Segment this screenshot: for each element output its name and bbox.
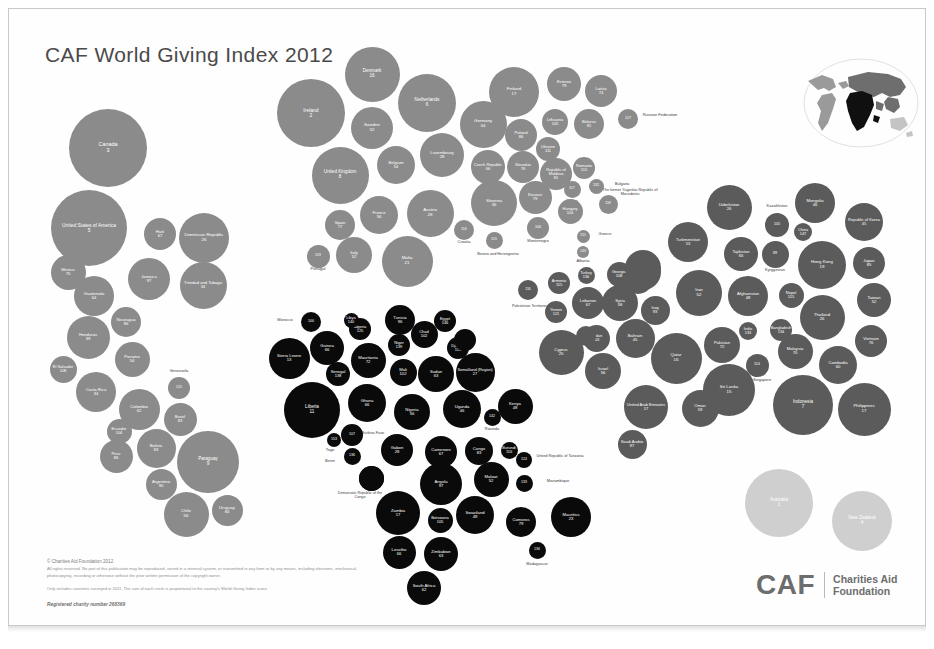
bubble-azerbaijan[interactable] bbox=[625, 250, 661, 286]
bubble-canada[interactable]: Canada3 bbox=[69, 109, 147, 187]
bubble-afghanistan[interactable]: Afghanistan48 bbox=[728, 276, 768, 316]
bubble-venezuela[interactable]: 121 bbox=[168, 377, 190, 399]
bubble-turkmenistan[interactable]: Turkmenistan53 bbox=[668, 222, 708, 262]
bubble-guinea[interactable]: Guinea66 bbox=[310, 331, 344, 365]
bubble-chile[interactable]: Chile56 bbox=[164, 492, 209, 537]
bubble-hong-kong[interactable]: Hong Kong19 bbox=[798, 241, 846, 289]
bubble-bahrain[interactable]: Bahrain45 bbox=[616, 319, 655, 358]
bubble-estonia[interactable]: Estonia79 bbox=[547, 67, 581, 101]
bubble-oman[interactable]: Oman59 bbox=[682, 390, 719, 427]
bubble-mozambique[interactable]: 133 bbox=[516, 475, 533, 492]
bubble-benin[interactable]: 136 bbox=[344, 448, 361, 465]
bubble-serbia[interactable]: 117 bbox=[564, 181, 581, 198]
bubble-mongolia[interactable]: Mongolia46 bbox=[795, 183, 835, 223]
bubble-kyrgyzstan[interactable]: 89 bbox=[762, 241, 789, 268]
bubble-china[interactable]: China147 bbox=[794, 223, 812, 241]
bubble-kuwait[interactable] bbox=[576, 326, 596, 346]
bubble-tajikistan[interactable]: Tajikistan65 bbox=[724, 237, 758, 271]
bubble-rwanda[interactable]: 142 bbox=[484, 409, 501, 426]
bubble-republic-of-korea[interactable]: Republic of Korea45 bbox=[845, 203, 883, 241]
bubble-brazil[interactable]: Brazil83 bbox=[164, 403, 197, 436]
bubble-paraguay[interactable]: Paraguay9 bbox=[177, 431, 239, 493]
bubble-egypt[interactable]: Egypt146 bbox=[434, 310, 456, 332]
bubble-greece[interactable]: 151 bbox=[577, 230, 590, 243]
bubble-nigeria[interactable]: Nigeria56 bbox=[394, 394, 430, 430]
bubble-cambodia[interactable]: Cambodia60 bbox=[819, 346, 857, 384]
bubble-panama[interactable]: Panama54 bbox=[115, 342, 150, 377]
bubble-qatar[interactable]: Qatar16 bbox=[651, 333, 702, 384]
bubble-latvia[interactable]: Latvia74 bbox=[585, 75, 617, 107]
bubble-iran[interactable]: Iran52 bbox=[676, 270, 722, 316]
bubble-sweden[interactable]: Sweden32 bbox=[351, 107, 393, 149]
bubble-israel[interactable]: Israel56 bbox=[585, 353, 621, 389]
bubble-botswana[interactable]: Botswana105 bbox=[428, 508, 453, 533]
bubble-slovenia[interactable]: Slovenia36 bbox=[471, 180, 517, 226]
bubble-russian-federation[interactable]: 127 bbox=[618, 109, 638, 129]
bubble-palestinian-territories[interactable]: 116 bbox=[518, 280, 538, 300]
bubble-indonesia[interactable]: Indonesia7 bbox=[773, 375, 833, 435]
bubble-kenya[interactable]: Kenya48 bbox=[498, 389, 533, 424]
bubble-sudan[interactable]: Sudan63 bbox=[418, 356, 454, 392]
bubble-albania[interactable]: 143 bbox=[577, 246, 589, 258]
bubble-gabon[interactable]: Gabon28 bbox=[381, 434, 413, 466]
bubble-belgium[interactable]: Belgium54 bbox=[377, 146, 415, 184]
bubble-mauritania[interactable]: Mauritania72 bbox=[351, 343, 386, 378]
bubble-armenia[interactable]: Armenia115 bbox=[548, 272, 570, 294]
bubble-turkey[interactable]: Turkey136 bbox=[578, 267, 595, 284]
bubble-ethiopia[interactable] bbox=[454, 329, 476, 351]
bubble-burkina-faso[interactable]: 107 bbox=[341, 424, 363, 446]
bubble-czech-republic[interactable]: Czech Republic66 bbox=[471, 150, 505, 184]
bubble-syria[interactable]: Syria58 bbox=[602, 285, 638, 321]
bubble-argentina[interactable]: Argentina90 bbox=[146, 469, 177, 500]
bubble-ireland[interactable]: Ireland2 bbox=[277, 79, 345, 147]
bubble-south-africa[interactable]: South Africa62 bbox=[407, 571, 441, 605]
bubble-jamaica[interactable]: Jamaica97 bbox=[128, 258, 170, 300]
bubble-croatia[interactable]: 116 bbox=[454, 220, 474, 240]
bubble-guatemala[interactable]: Guatemala64 bbox=[74, 276, 114, 316]
bubble-lithuania[interactable]: Lithuania105 bbox=[542, 109, 568, 135]
bubble-bolivia[interactable]: Bolivia83 bbox=[137, 429, 176, 468]
bubble-portugal[interactable]: 119 bbox=[307, 245, 330, 268]
bubble-denmark[interactable]: Denmark16 bbox=[345, 47, 400, 102]
bubble-austria[interactable]: Austria28 bbox=[407, 190, 454, 237]
bubble-lesotho[interactable]: Lesotho66 bbox=[383, 536, 416, 569]
bubble-sierra-leone[interactable]: Sierra Leone13 bbox=[269, 338, 310, 379]
bubble-saudi-arabia[interactable]: Saudi Arabia87 bbox=[618, 430, 647, 459]
bubble-slovakia[interactable]: Slovakia76 bbox=[507, 151, 539, 183]
bubble-zambia[interactable]: Zambia17 bbox=[376, 491, 420, 535]
bubble-uzbekistan[interactable]: Uzbekistan26 bbox=[707, 185, 752, 230]
bubble-ghana[interactable]: Ghana66 bbox=[348, 384, 386, 422]
bubble-bosnia-and-herzegovina[interactable]: 155 bbox=[486, 232, 503, 249]
bubble-belarus[interactable]: Belarus91 bbox=[574, 109, 604, 139]
bubble-somaliland-region[interactable]: Somaliland (Region)27 bbox=[456, 353, 495, 392]
bubble-united-republic-of-tanzania[interactable]: 124 bbox=[516, 452, 532, 468]
bubble-zimbabwe[interactable]: Zimbabwe63 bbox=[424, 537, 458, 571]
bubble-uruguay[interactable]: Uruguay84 bbox=[212, 495, 243, 526]
bubble-uganda[interactable]: Uganda46 bbox=[443, 390, 481, 428]
bubble-lebanon[interactable]: Lebanon67 bbox=[572, 287, 604, 319]
bubble-costa-rica[interactable]: Costa Rica34 bbox=[76, 372, 116, 412]
bubble-united-states-of-america[interactable]: United States of America5 bbox=[51, 190, 127, 266]
bubble-luxembourg[interactable]: Luxembourg28 bbox=[420, 133, 464, 177]
bubble-thailand[interactable]: Thailand26 bbox=[800, 295, 845, 340]
bubble-burundi[interactable]: Burundi116 bbox=[501, 442, 518, 459]
bubble-dominican-republic[interactable]: Dominican Republic26 bbox=[179, 213, 229, 263]
bubble-vietnam[interactable]: Vietnam76 bbox=[855, 325, 887, 357]
bubble-honduras[interactable]: Honduras39 bbox=[67, 316, 110, 359]
bubble-france[interactable]: France56 bbox=[360, 196, 398, 234]
bubble-trinidad-and-tobago[interactable]: Trinidad and Tobago34 bbox=[180, 262, 227, 309]
bubble-romania[interactable]: Romania115 bbox=[573, 157, 595, 179]
bubble-morocco[interactable]: 100 bbox=[301, 312, 321, 332]
bubble-angola[interactable]: Angola97 bbox=[420, 463, 462, 505]
bubble-iraq[interactable]: Iraq93 bbox=[641, 296, 670, 325]
bubble-pakistan[interactable]: Pakistan72 bbox=[704, 327, 740, 363]
bubble-nepal[interactable]: Nepal115 bbox=[779, 283, 804, 308]
bubble-japan[interactable]: Japan85 bbox=[853, 247, 885, 279]
bubble-libya[interactable]: Libya140 bbox=[344, 313, 359, 328]
bubble-mali[interactable]: Mali102 bbox=[390, 359, 417, 386]
bubble-india[interactable]: India133 bbox=[739, 322, 757, 340]
bubble-peru[interactable]: Peru86 bbox=[100, 440, 133, 473]
bubble-malta[interactable]: Malta21 bbox=[382, 236, 433, 287]
bubble-mauritius[interactable]: Mauritius23 bbox=[551, 497, 591, 537]
bubble-australia[interactable]: Australia1 bbox=[745, 469, 813, 537]
